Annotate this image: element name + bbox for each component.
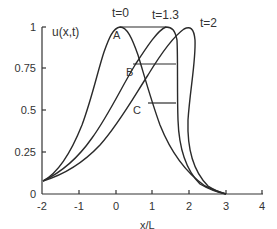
x-tick-label: 2 — [186, 200, 192, 212]
y-tick-labels: 1 0.75 0.5 0.25 0 — [15, 21, 36, 200]
x-tick-label: 0 — [113, 200, 119, 212]
horizontal-segments — [120, 27, 176, 103]
y-tick-label: 0.5 — [21, 104, 36, 116]
y-tick-label: 0 — [30, 188, 36, 200]
chart: 1 0.75 0.5 0.25 0 -2 -1 0 1 2 3 4 u(x,t)… — [0, 0, 277, 217]
x-tick-label: 3 — [223, 200, 229, 212]
axes — [42, 27, 263, 194]
y-tick-label: 0.75 — [15, 62, 36, 74]
x-tick-label: 4 — [259, 200, 265, 212]
x-tick-label: -1 — [74, 200, 84, 212]
y-tick-label: 0.25 — [15, 146, 36, 158]
x-tick-label: -2 — [37, 200, 47, 212]
annotation-C: C — [133, 104, 141, 116]
annotation-A: A — [113, 29, 121, 41]
y-axis-label: u(x,t) — [52, 25, 79, 39]
point-annotations: A B C — [113, 29, 141, 116]
chart-svg: 1 0.75 0.5 0.25 0 -2 -1 0 1 2 3 4 u(x,t)… — [0, 0, 277, 217]
label-t13: t=1.3 — [152, 8, 179, 22]
label-t2: t=2 — [200, 16, 217, 30]
annotation-B: B — [126, 66, 133, 78]
x-tick-labels: -2 -1 0 1 2 3 4 — [37, 200, 265, 212]
x-tick-label: 1 — [149, 200, 155, 212]
y-tick-label: 1 — [30, 21, 36, 33]
label-t0: t=0 — [112, 6, 129, 20]
